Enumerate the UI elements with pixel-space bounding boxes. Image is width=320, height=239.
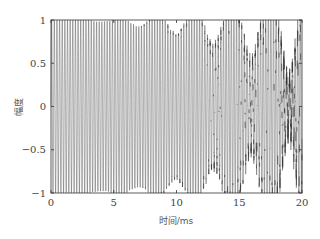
y-tick-label: 0.5 (30, 58, 46, 69)
waveform-chart: 10.50−0.5−1 05101520 时间/ms 幅度 (0, 0, 320, 239)
y-tick-label: 0 (40, 101, 46, 112)
x-tick-label: 20 (296, 197, 309, 208)
signal-trace (51, 20, 302, 193)
y-tick-label: 1 (40, 15, 46, 26)
y-tick-label: −1 (31, 188, 46, 199)
y-axis-label: 幅度 (13, 98, 24, 116)
x-tick-label: 15 (233, 197, 246, 208)
x-tick-label: 0 (48, 197, 54, 208)
x-tick-label: 5 (111, 197, 117, 208)
x-tick-label: 10 (170, 197, 183, 208)
y-tick-label: −0.5 (22, 144, 46, 155)
signal-line (51, 20, 302, 193)
x-axis-label: 时间/ms (159, 215, 194, 226)
